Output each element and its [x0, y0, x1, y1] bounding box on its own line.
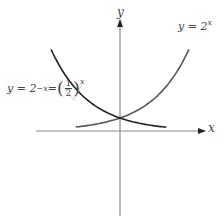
x-axis-label: x [208, 121, 215, 135]
decay-lhs: y = 2 [7, 82, 36, 95]
growth-exponent: x [207, 18, 212, 27]
curve-2-to-x [76, 49, 189, 127]
decay-exponent: −x [36, 84, 47, 93]
growth-lhs: y = 2 [178, 20, 207, 33]
y-axis-label: y [117, 5, 124, 19]
growth-curve-label: y = 2x [178, 18, 212, 33]
right-paren: ) [73, 80, 80, 97]
decay-outer-exponent: x [80, 77, 85, 86]
decay-curve-label: y = 2−x = (12)x [7, 79, 84, 98]
fraction-one-half: 12 [65, 79, 73, 98]
decay-equals: = [48, 82, 57, 95]
left-paren: ( [57, 80, 64, 97]
